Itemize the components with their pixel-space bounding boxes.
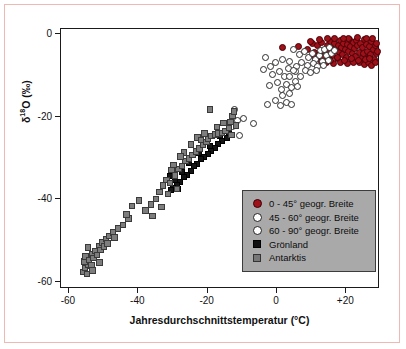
data-point <box>207 106 214 113</box>
data-point <box>236 132 243 139</box>
data-point <box>272 59 279 66</box>
data-point <box>142 207 149 214</box>
data-point <box>177 153 184 160</box>
data-point <box>354 34 361 41</box>
data-point <box>331 47 338 54</box>
data-point <box>233 122 240 129</box>
legend-item: Grönland <box>250 238 369 252</box>
legend-item-label: 60 - 90° geogr. Breite <box>264 225 359 236</box>
data-point <box>372 59 379 66</box>
data-point <box>334 54 341 61</box>
data-point <box>307 38 314 45</box>
legend-marker-open-icon <box>250 213 264 222</box>
data-point <box>373 40 380 47</box>
data-point <box>136 197 143 204</box>
data-point <box>269 71 276 78</box>
data-point <box>313 67 320 74</box>
data-point <box>264 101 271 108</box>
x-axis-label: Jahresdurchschnittstemperatur (°C) <box>60 314 379 326</box>
legend-item: 45 - 60° geogr. Breite <box>250 211 369 225</box>
x-axis-tick-label: 0 <box>273 295 279 306</box>
y-axis-label-rest: O (‰) <box>20 80 32 109</box>
x-axis-tick <box>137 287 138 293</box>
x-axis-tick <box>345 287 346 293</box>
data-point <box>158 204 165 211</box>
legend-marker-open-icon <box>250 226 264 235</box>
data-point <box>231 108 238 115</box>
data-point <box>262 54 269 61</box>
data-point <box>104 240 111 247</box>
y-axis-label-delta: δ <box>20 117 32 123</box>
data-point <box>85 244 92 251</box>
data-point <box>288 101 295 108</box>
data-point <box>279 56 286 63</box>
data-point <box>172 172 179 179</box>
x-axis-tick-label: -20 <box>199 295 213 306</box>
data-point <box>120 222 127 229</box>
legend-marker-red-icon <box>250 199 264 208</box>
y-axis-label-superscript: 18 <box>19 109 26 117</box>
data-point <box>89 267 96 274</box>
y-axis-tick <box>55 33 61 34</box>
data-point <box>198 137 205 144</box>
legend-item-label: 45 - 60° geogr. Breite <box>264 212 359 223</box>
legend-item: Antarktis <box>250 251 369 265</box>
data-point <box>148 201 155 208</box>
data-point <box>294 83 301 90</box>
y-axis-label: δ18O (‰) <box>19 80 32 123</box>
data-point <box>188 141 195 148</box>
y-axis-tick <box>55 198 61 199</box>
legend-item-label: Antarktis <box>264 252 306 263</box>
y-axis-tick-label: 0 <box>46 28 52 39</box>
marker-glyph <box>253 213 262 222</box>
data-point <box>266 82 273 89</box>
data-point <box>341 57 348 64</box>
data-point <box>111 234 118 241</box>
data-point <box>165 191 172 198</box>
legend-item: 0 - 45° geogr. Breite <box>250 197 369 211</box>
figure-border: δ18O (‰) 0-20-40-60-60-40-200+20 Jahresd… <box>4 4 400 343</box>
data-point <box>374 48 381 55</box>
x-axis-tick-label: -40 <box>130 295 144 306</box>
y-axis-tick <box>55 116 61 117</box>
data-point <box>250 120 257 127</box>
data-point <box>340 35 347 42</box>
data-point <box>156 189 163 196</box>
data-point <box>355 57 362 64</box>
data-point <box>174 186 181 193</box>
marker-glyph <box>253 254 262 263</box>
legend-item: 60 - 90° geogr. Breite <box>250 224 369 238</box>
data-point <box>220 120 227 127</box>
data-point <box>170 162 177 169</box>
x-axis-tick-label: -60 <box>61 295 75 306</box>
data-point <box>316 36 323 43</box>
marker-glyph <box>253 226 262 235</box>
marker-glyph <box>253 199 262 208</box>
x-axis-tick <box>276 287 277 293</box>
y-axis-tick <box>55 281 61 282</box>
legend-item-label: Grönland <box>264 239 308 250</box>
data-point <box>228 132 235 139</box>
x-axis-tick <box>68 287 69 293</box>
y-axis-tick-label: -40 <box>38 193 52 204</box>
data-point <box>325 57 332 64</box>
y-axis-tick-label: -20 <box>38 110 52 121</box>
data-point <box>123 211 130 218</box>
data-point <box>214 124 221 131</box>
data-point <box>286 90 293 97</box>
data-point <box>290 67 297 74</box>
data-point <box>260 66 267 73</box>
data-point <box>279 44 286 51</box>
data-point <box>129 203 136 210</box>
legend-marker-black-icon <box>250 240 264 248</box>
data-point <box>167 180 174 187</box>
y-axis-tick-label: -60 <box>38 275 52 286</box>
legend-item-label: 0 - 45° geogr. Breite <box>264 198 354 209</box>
x-axis-tick-label: +20 <box>337 295 354 306</box>
data-point <box>201 130 208 137</box>
data-point <box>153 196 160 203</box>
marker-glyph <box>253 240 261 248</box>
data-point <box>96 259 103 266</box>
data-point <box>160 182 167 189</box>
data-point <box>149 213 156 220</box>
